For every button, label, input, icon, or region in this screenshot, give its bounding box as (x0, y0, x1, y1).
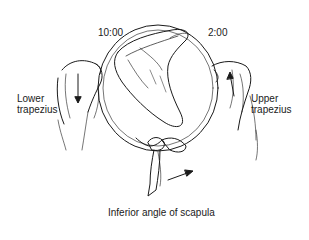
clock-ring (98, 25, 218, 151)
lower-trapezius-label: Lower trapezius (17, 93, 58, 115)
clock-label-2: 2:00 (208, 27, 227, 38)
arrow-diagonal-icon (168, 170, 193, 180)
right-hand (212, 62, 256, 141)
lower-trapezius-line1: Lower (17, 93, 58, 104)
arrow-down-icon (75, 74, 81, 103)
left-hand (57, 61, 102, 150)
lower-trapezius-line2: trapezius (17, 104, 58, 115)
upper-trapezius-line1: Upper (251, 93, 292, 104)
upper-trapezius-line2: trapezius (251, 104, 292, 115)
scapula-shape (115, 29, 189, 126)
figure-caption: Inferior angle of scapula (108, 207, 215, 218)
upper-trapezius-label: Upper trapezius (251, 93, 292, 115)
ribbon-knot (136, 138, 186, 197)
clock-label-10: 10:00 (98, 27, 123, 38)
body-contours (58, 120, 258, 160)
